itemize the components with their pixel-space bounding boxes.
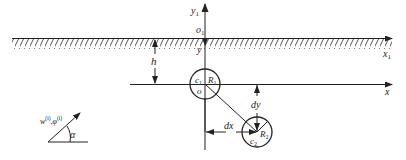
dx-label: dx [224, 120, 234, 131]
o1-label: o1 [196, 24, 205, 37]
y-lower-label: y [196, 44, 202, 55]
wave-label: w(i),φ(i) [40, 115, 62, 126]
r2-label: R2 [259, 129, 269, 140]
diagram-canvas: y1 o1 y x1 h x c1 o R1 c2 R2 dx dy w(i),… [0, 0, 406, 160]
ground-surface [12, 39, 392, 50]
o-label: o [197, 86, 202, 96]
x-label: x [384, 86, 390, 97]
r1-label: R1 [207, 75, 217, 86]
x1-label: x1 [382, 48, 391, 61]
alpha-label: α [70, 129, 76, 140]
c2-label: c2 [250, 136, 257, 147]
y1-label: y1 [190, 5, 199, 18]
c1-label: c1 [195, 75, 202, 86]
h-label: h [151, 55, 157, 67]
y1-arrowhead [202, 3, 209, 12]
ground-hatching [12, 39, 392, 49]
dy-label: dy [251, 99, 261, 110]
